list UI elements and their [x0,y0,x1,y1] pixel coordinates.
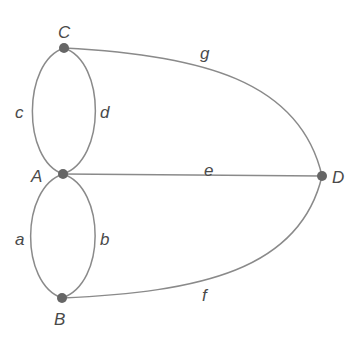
edge-label-f: f [202,286,209,305]
node-C [59,43,69,53]
edge-e [63,174,322,176]
edge-b [62,174,95,298]
edge-d [63,48,95,174]
edge-label-d: d [100,103,110,122]
node-label-D: D [332,168,344,187]
node-A [58,169,68,179]
node-label-A: A [30,167,42,186]
node-B [57,293,67,303]
edge-c [32,48,64,174]
edge-label-b: b [100,230,109,249]
node-label-C: C [58,23,71,42]
graph-diagram: C A B D c d a b g e f [0,0,354,349]
edge-a [31,174,63,298]
edge-label-c: c [15,103,24,122]
edge-label-g: g [200,44,210,63]
node-D [317,171,327,181]
edge-label-e: e [204,161,213,180]
node-label-B: B [54,310,65,329]
edge-label-a: a [15,230,24,249]
